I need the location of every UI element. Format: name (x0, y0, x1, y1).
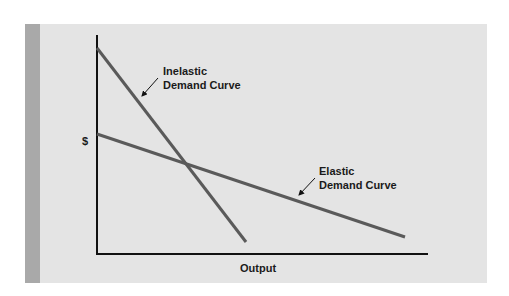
inelastic-demand-curve (97, 48, 246, 242)
inelastic-label-line2: Demand Curve (163, 79, 241, 91)
y-axis-label: $ (82, 135, 88, 147)
inelastic-label-line1: Inelastic (163, 65, 207, 77)
inelastic-arrow-icon (142, 78, 158, 96)
elastic-label-line2: Demand Curve (319, 179, 397, 191)
elastic-arrow-icon (299, 178, 315, 195)
demand-chart: $ Output Inelastic Demand Curve Elastic … (0, 0, 509, 296)
x-axis-label: Output (240, 262, 276, 274)
elastic-label-line1: Elastic (319, 165, 354, 177)
